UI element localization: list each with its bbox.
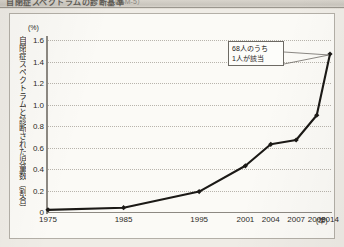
x-axis-tick: 2004 <box>262 215 280 224</box>
x-axis-unit-label: (年) <box>316 215 328 225</box>
header-subtitle: （DSM-5） <box>108 0 144 6</box>
x-axis-line <box>47 212 332 213</box>
y-axis-tick: 0.2 <box>26 186 44 195</box>
y-axis-tick: 1.4 <box>26 57 44 66</box>
gridline <box>48 191 331 192</box>
x-axis-tick: 2001 <box>236 215 254 224</box>
y-axis-tick: 1.0 <box>26 100 44 109</box>
gridline <box>48 105 331 106</box>
gridline <box>48 83 331 84</box>
gridline <box>48 40 331 41</box>
annotation-callout: 68人のうち 1人が該当 <box>228 41 284 66</box>
gridline <box>48 62 331 63</box>
y-axis-title: 自閉症スペクトラムと診断された児童数（割合） <box>13 36 26 216</box>
x-axis-tick: 2007 <box>287 215 305 224</box>
y-axis-line <box>46 36 48 214</box>
gridline <box>48 169 331 170</box>
y-axis-tick: 1.6 <box>26 36 44 45</box>
y-axis-tick: 0.8 <box>26 122 44 131</box>
gridline <box>48 148 331 149</box>
y-axis-tick: 0.4 <box>26 165 44 174</box>
x-axis-tick: 1975 <box>39 215 57 224</box>
gridline <box>48 126 331 127</box>
annotation-line-2: 1人が該当 <box>232 54 280 64</box>
page-header-strip: 自閉症スペクトラムの診断基準 （DSM-5） <box>0 0 344 9</box>
y-axis-tick: 0.6 <box>26 143 44 152</box>
header-title: 自閉症スペクトラムの診断基準 <box>6 0 124 7</box>
header-divider <box>0 7 344 8</box>
x-axis-tick: 1985 <box>115 215 133 224</box>
y-axis-tick: 1.2 <box>26 79 44 88</box>
annotation-line-1: 68人のうち <box>232 44 280 54</box>
y-axis-tick-labels: 00.20.40.60.81.01.21.41.6 <box>26 0 44 247</box>
x-axis-tick: 1995 <box>190 215 208 224</box>
